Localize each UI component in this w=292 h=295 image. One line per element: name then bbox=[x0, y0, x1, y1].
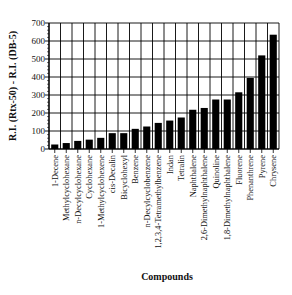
x-category-label: Cyclohexane bbox=[85, 155, 94, 199]
bar bbox=[258, 55, 265, 149]
y-tick-labels: 0100200300400500600700 bbox=[32, 18, 46, 154]
bar bbox=[109, 133, 116, 149]
x-category-label: Naphthalene bbox=[189, 155, 198, 198]
y-tick-label: 400 bbox=[32, 72, 46, 82]
bar bbox=[74, 141, 81, 149]
x-category-label: Tetralin bbox=[177, 154, 186, 181]
axes bbox=[45, 23, 279, 153]
x-category-label: Chrysene bbox=[269, 155, 278, 187]
x-category-label: 1,2,3,4-Tetramethylbenzene bbox=[154, 155, 163, 249]
y-tick-label: 100 bbox=[32, 126, 46, 136]
bar bbox=[235, 92, 242, 149]
x-category-label: Fluorene bbox=[235, 155, 244, 185]
y-tick-label: 300 bbox=[32, 90, 46, 100]
grid bbox=[49, 23, 279, 149]
bar bbox=[212, 100, 219, 150]
x-category-label: Indan bbox=[166, 154, 175, 174]
x-category-label: Pyrene bbox=[258, 155, 267, 179]
x-category-label: Phenanthrene bbox=[246, 155, 255, 201]
x-category-labels: 1-DeceneMethylcyclohexanen-Decylcyclohex… bbox=[51, 154, 279, 248]
x-category-label: 1,8-Dimethylnaphthalene bbox=[223, 155, 232, 241]
y-tick-label: 500 bbox=[32, 54, 46, 64]
x-category-label: cis-Decalin bbox=[108, 154, 117, 193]
x-category-label: Bicyclohexyl bbox=[120, 154, 129, 199]
y-tick-label: 600 bbox=[32, 36, 46, 46]
bar bbox=[63, 143, 70, 149]
x-axis-title: Compounds bbox=[141, 271, 193, 282]
bar bbox=[132, 129, 139, 149]
x-category-label: Quinoline bbox=[212, 155, 221, 189]
bar bbox=[97, 138, 104, 149]
x-category-label: n-Decylcyclobenzene bbox=[143, 155, 152, 228]
y-tick-label: 200 bbox=[32, 108, 46, 118]
bar bbox=[247, 78, 254, 149]
x-category-label: 2,6-Dimethylnaphthalene bbox=[200, 155, 209, 241]
x-category-label: 1-Methylcyclohexene bbox=[97, 155, 106, 228]
x-category-label: Benzene bbox=[131, 155, 140, 184]
bar bbox=[270, 35, 277, 149]
bar bbox=[143, 127, 150, 150]
bar bbox=[120, 133, 127, 149]
x-category-label: Methylcyclohexane bbox=[62, 155, 71, 221]
x-category-label: 1-Decene bbox=[51, 155, 60, 187]
x-category-label: n-Decylcyclohexane bbox=[74, 155, 83, 224]
bar bbox=[178, 118, 185, 150]
bar bbox=[166, 121, 173, 149]
bar bbox=[51, 145, 58, 150]
y-tick-label: 700 bbox=[32, 18, 46, 28]
bar bbox=[155, 123, 162, 149]
bar bbox=[189, 110, 196, 149]
bar-chart: 0100200300400500600700 1-DeceneMethylcyc… bbox=[0, 0, 292, 295]
bar bbox=[86, 140, 93, 149]
bar bbox=[224, 100, 231, 150]
y-tick-label: 0 bbox=[41, 144, 46, 154]
y-axis-title: R.I. (Rtx-50) - R.I. (DB-5) bbox=[7, 31, 19, 141]
bar bbox=[201, 108, 208, 149]
